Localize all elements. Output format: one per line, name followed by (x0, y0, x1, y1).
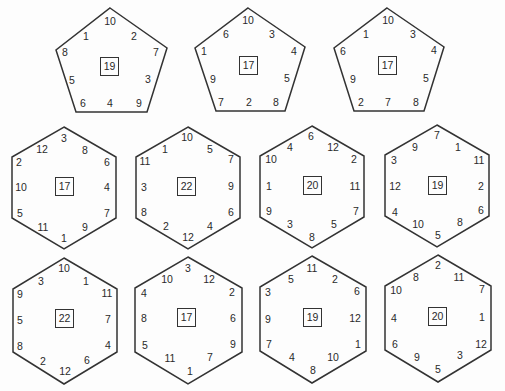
hexagon-5-number: 6 (77, 354, 97, 366)
hexagon-8-number: 5 (428, 363, 448, 375)
hexagon-2-number: 10 (177, 131, 197, 143)
hexagon-6-number: 6 (223, 312, 243, 324)
hexagon-3-number: 7 (346, 205, 366, 217)
hexagon-2-number: 1 (155, 143, 175, 155)
hexagon-3-number: 8 (302, 231, 322, 243)
hexagon-8-number: 6 (385, 338, 405, 350)
hexagon-7-number: 2 (325, 273, 345, 285)
hexagon-1-number: 11 (33, 221, 53, 233)
hexagon-4-number: 6 (471, 204, 491, 216)
hexagon-7-number: 1 (348, 338, 368, 350)
pentagon-1-number: 2 (124, 30, 144, 42)
hexagon-1-number: 12 (32, 143, 52, 155)
hexagon-5-number: 1 (76, 275, 96, 287)
hexagon-4-number: 12 (385, 180, 405, 192)
pentagon-2-number: 2 (239, 96, 259, 108)
hexagon-8-number: 3 (450, 349, 470, 361)
hexagon-1-number: 3 (54, 132, 74, 144)
hexagon-4-number: 11 (469, 154, 489, 166)
hexagon-6-number: 12 (199, 273, 219, 285)
pentagon-1-number: 7 (146, 46, 166, 58)
hexagon-7-number: 8 (303, 364, 323, 376)
hexagon-2-number: 11 (135, 155, 155, 167)
hexagon-2-number: 9 (221, 180, 241, 192)
pentagon-3-number: 2 (351, 96, 371, 108)
hexagon-5-number: 4 (98, 339, 118, 351)
hexagon-6-number: 2 (222, 286, 242, 298)
pentagon-2-number: 5 (277, 72, 297, 84)
pentagon-2-number: 6 (216, 28, 236, 40)
hexagon-4-number: 9 (405, 141, 425, 153)
hexagon-4-center-sum: 19 (428, 176, 447, 195)
hexagon-1-number: 9 (75, 221, 95, 233)
hexagon-2-number: 7 (221, 153, 241, 165)
hexagon-3-number: 4 (280, 141, 300, 153)
hexagon-8-number: 7 (472, 283, 492, 295)
hexagon-5-number: 8 (10, 340, 30, 352)
hexagon-8-center-sum: 20 (428, 307, 447, 326)
pentagon-2-number: 7 (211, 96, 231, 108)
pentagon-3-number: 3 (403, 28, 423, 40)
pentagon-3-number: 1 (356, 28, 376, 40)
hexagon-5-center-sum: 22 (55, 309, 74, 328)
hexagon-7-number: 4 (282, 351, 302, 363)
pentagon-2-number: 4 (284, 45, 304, 57)
hexagon-3-number: 1 (259, 180, 279, 192)
pentagon-1-number: 6 (73, 97, 93, 109)
hexagon-8-number: 1 (472, 311, 492, 323)
hexagon-1-number: 2 (9, 156, 29, 168)
hexagon-6-number: 5 (135, 339, 155, 351)
hexagon-4-number: 2 (471, 180, 491, 192)
pentagon-1-number: 10 (100, 15, 120, 27)
hexagon-4-number: 8 (450, 216, 470, 228)
hexagon-8-number: 9 (407, 351, 427, 363)
hexagon-1-number: 10 (11, 181, 31, 193)
hexagon-2-number: 8 (134, 206, 154, 218)
hexagon-1-number: 8 (75, 144, 95, 156)
hexagon-2-center-sum: 22 (177, 177, 196, 196)
hexagon-7-center-sum: 19 (303, 308, 322, 327)
hexagon-4-number: 7 (427, 129, 447, 141)
hexagon-5-number: 12 (55, 365, 75, 377)
hexagon-8-number: 11 (449, 271, 469, 283)
hexagon-3-number: 10 (261, 153, 281, 165)
hexagon-6-number: 9 (223, 338, 243, 350)
hexagon-2-number: 5 (200, 143, 220, 155)
pentagon-3-number: 9 (343, 73, 363, 85)
hexagon-4-number: 1 (448, 141, 468, 153)
hexagon-5-number: 3 (31, 275, 51, 287)
hexagon-5-number: 10 (54, 262, 74, 274)
hexagon-7-number: 9 (258, 313, 278, 325)
pentagon-1-number: 3 (138, 73, 158, 85)
hexagon-6-number: 10 (157, 273, 177, 285)
hexagon-6-number: 11 (160, 352, 180, 364)
hexagon-8-number: 2 (428, 259, 448, 271)
hexagon-4-number: 3 (384, 154, 404, 166)
hexagon-7-number: 12 (345, 312, 365, 324)
hexagon-3-center-sum: 20 (303, 176, 322, 195)
pentagon-3-number: 5 (416, 72, 436, 84)
pentagon-3-number: 7 (378, 96, 398, 108)
hexagon-4-number: 10 (408, 218, 428, 230)
hexagon-5-number: 5 (10, 314, 30, 326)
hexagon-2-number: 3 (134, 181, 154, 193)
hexagon-6-number: 4 (134, 287, 154, 299)
pentagon-2-center-sum: 17 (239, 56, 258, 75)
pentagon-3-number: 6 (333, 45, 353, 57)
hexagon-6-number: 1 (180, 365, 200, 377)
hexagon-2-number: 2 (156, 220, 176, 232)
pentagon-1-number: 9 (129, 97, 149, 109)
hexagon-6-number: 3 (178, 262, 198, 274)
hexagon-5-number: 2 (33, 355, 53, 367)
hexagon-3-number: 6 (301, 130, 321, 142)
hexagon-8-number: 10 (386, 284, 406, 296)
hexagon-8-number: 8 (406, 271, 426, 283)
hexagon-4-number: 4 (385, 206, 405, 218)
hexagon-1-number: 6 (97, 156, 117, 168)
hexagon-1-number: 4 (97, 181, 117, 193)
hexagon-5-number: 9 (10, 288, 30, 300)
hexagon-2-number: 12 (178, 231, 198, 243)
hexagon-3-number: 3 (280, 218, 300, 230)
hexagon-3-number: 11 (345, 180, 365, 192)
hexagon-4-number: 5 (428, 229, 448, 241)
